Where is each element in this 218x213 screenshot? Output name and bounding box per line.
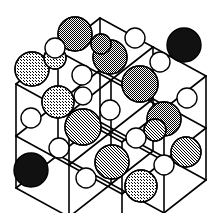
atom-body xyxy=(126,128,146,148)
crystal-lattice-figure xyxy=(0,0,218,213)
atom-large-9 xyxy=(171,137,201,167)
atom-body xyxy=(177,88,197,108)
atom-stipple xyxy=(126,171,157,202)
atom-large-15 xyxy=(91,34,111,54)
atom-large-5 xyxy=(122,66,158,102)
atom-small-3 xyxy=(72,65,92,85)
atom-body xyxy=(14,153,48,187)
atom-small-12 xyxy=(74,87,92,105)
atom-large-12 xyxy=(125,170,157,202)
atom-small-2 xyxy=(125,28,145,48)
atom-body xyxy=(45,38,65,58)
atom-body xyxy=(167,28,201,62)
atom-large-3 xyxy=(167,28,201,62)
atom-small-9 xyxy=(49,138,69,158)
atom-stipple xyxy=(96,146,129,179)
atom-stipple xyxy=(123,67,158,102)
atom-stipple xyxy=(66,110,101,145)
atom-small-11 xyxy=(76,168,96,188)
atom-large-6 xyxy=(42,86,74,118)
atom-small-10 xyxy=(154,155,174,175)
atom-large-10 xyxy=(95,145,129,179)
atom-small-7 xyxy=(177,88,197,108)
atom-body xyxy=(76,168,96,188)
atom-large-14 xyxy=(144,119,166,141)
atom-large-8 xyxy=(65,109,101,145)
atom-small-1 xyxy=(45,38,65,58)
atom-body xyxy=(74,87,92,105)
atom-stipple xyxy=(145,120,166,141)
atom-large-11 xyxy=(14,153,48,187)
atom-body xyxy=(72,65,92,85)
atom-small-4 xyxy=(150,52,170,72)
atom-body xyxy=(154,155,174,175)
atom-body xyxy=(49,138,69,158)
atom-body xyxy=(125,28,145,48)
atom-stipple xyxy=(172,138,201,167)
atom-stipple xyxy=(92,35,111,54)
atom-stipple xyxy=(43,87,74,118)
atom-small-8 xyxy=(126,128,146,148)
atom-body xyxy=(150,52,170,72)
atom-small-5 xyxy=(100,100,120,120)
lattice-diagram xyxy=(0,0,218,213)
atom-body xyxy=(21,108,41,128)
atom-small-6 xyxy=(21,108,41,128)
atom-body xyxy=(100,100,120,120)
